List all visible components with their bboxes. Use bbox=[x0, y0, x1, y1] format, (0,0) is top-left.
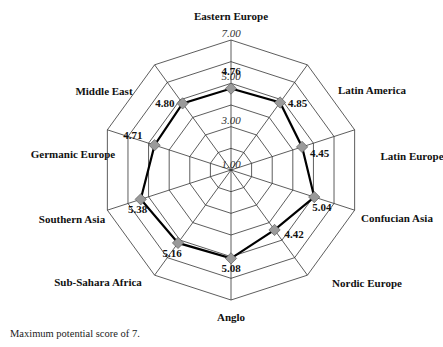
value-label: 5.04 bbox=[312, 201, 332, 213]
data-marker bbox=[274, 97, 285, 108]
value-label: 4.85 bbox=[288, 97, 308, 109]
grid-spoke bbox=[155, 65, 231, 170]
value-label: 5.08 bbox=[221, 262, 241, 274]
grid-spoke bbox=[231, 65, 307, 170]
category-label: Confucian Asia bbox=[361, 212, 433, 224]
data-marker bbox=[296, 141, 307, 152]
tick-label: 3.00 bbox=[220, 114, 241, 126]
value-label: 4.80 bbox=[155, 97, 175, 109]
radar-chart: 1.003.005.007.004.764.854.455.044.425.08… bbox=[0, 0, 443, 347]
category-label: Latin America bbox=[338, 84, 407, 96]
value-label: 5.38 bbox=[128, 203, 148, 215]
tick-label: 1.00 bbox=[221, 158, 241, 170]
value-label: 5.16 bbox=[162, 247, 182, 259]
value-label: 4.76 bbox=[221, 65, 241, 77]
category-label: Southern Asia bbox=[39, 213, 106, 225]
category-label: Middle East bbox=[75, 85, 132, 97]
grid-spoke bbox=[231, 170, 307, 275]
value-label: 4.42 bbox=[285, 228, 305, 240]
category-label: Germanic Europe bbox=[31, 148, 116, 160]
category-label: Nordic Europe bbox=[332, 277, 402, 289]
tick-label: 7.00 bbox=[221, 27, 241, 39]
category-label: Anglo bbox=[217, 311, 246, 323]
chart-caption: Maximum potential score of 7. bbox=[10, 328, 140, 339]
grid-spoke bbox=[155, 170, 231, 275]
category-label: Eastern Europe bbox=[194, 10, 268, 22]
category-label: Latin Europe bbox=[380, 150, 443, 162]
category-label: Sub-Sahara Africa bbox=[54, 276, 142, 288]
value-label: 4.71 bbox=[123, 129, 142, 141]
value-label: 4.45 bbox=[310, 147, 330, 159]
